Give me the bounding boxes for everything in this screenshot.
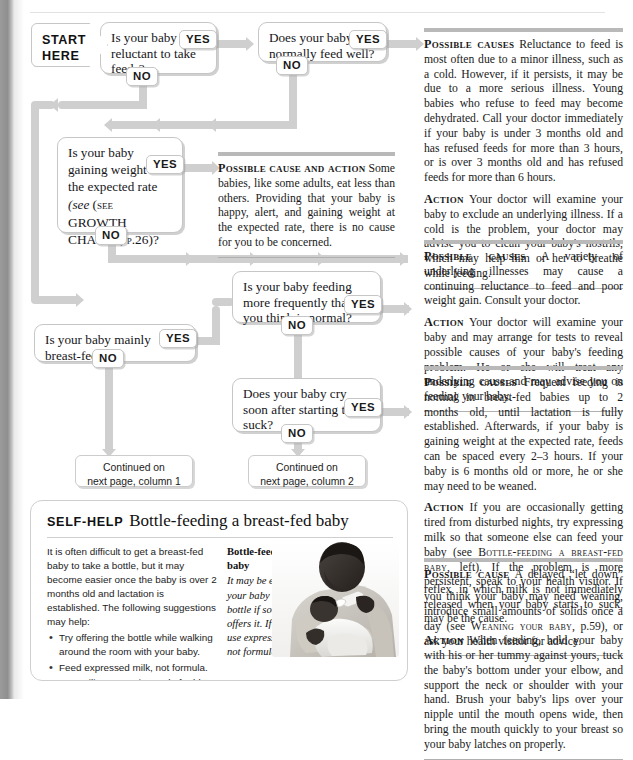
section-bar	[218, 152, 395, 156]
connector-q2-no-h2	[160, 121, 200, 129]
answer-lead: Possible cause and action	[218, 161, 365, 175]
list-item: Feed expressed milk, not formula.	[58, 661, 217, 675]
list-item: Try a silicone teat instead of rubber, o…	[58, 676, 217, 681]
tag-q6-no[interactable]: NO	[281, 424, 313, 443]
connector-arrow-q4-yes	[404, 302, 412, 316]
self-help-kicker: Self-help	[47, 515, 123, 529]
answer-lead: Possible causes	[424, 37, 514, 51]
connector-arrow-q2-no-a	[104, 118, 112, 132]
tag-q4-no[interactable]: NO	[281, 316, 313, 335]
connector-left-rail-corner	[31, 101, 55, 109]
section-rule	[218, 257, 395, 258]
answer-paragraph: Action When feeding, hold your baby with…	[424, 633, 623, 752]
self-help-title: Self-helpBottle-feeding a breast-fed bab…	[47, 511, 349, 531]
answer-lead: Possible causes	[424, 249, 525, 263]
continued1-line2: next page, column 1	[80, 475, 188, 489]
connector-q2-no-h	[112, 121, 297, 129]
continued1-line1: Continued on	[80, 461, 188, 475]
tag-label: NO	[288, 427, 306, 439]
continued-box-column-2[interactable]: Continued on next page, column 2	[248, 455, 366, 487]
section-rule	[424, 759, 623, 760]
page-gutter	[0, 0, 14, 699]
tag-q2-no[interactable]: NO	[276, 56, 308, 75]
tag-q5-no[interactable]: NO	[92, 349, 124, 368]
connector-q1-yes	[216, 40, 246, 48]
start-label-line1: START	[42, 32, 108, 48]
answer-paragraph: Possible cause A delayed “let down” refl…	[424, 567, 623, 627]
section-bar	[424, 240, 623, 244]
connector-rail-long	[31, 129, 39, 274]
continued-box-column-1[interactable]: Continued on next page, column 1	[75, 455, 193, 487]
list-item: Try offering the bottle while walking ar…	[58, 631, 217, 659]
connector-q2-yes	[386, 40, 416, 48]
answer-body: Frequent feeding is normal in breast-fed…	[424, 376, 623, 493]
tag-q5-yes[interactable]: YES	[159, 329, 197, 348]
tag-label: YES	[351, 298, 375, 310]
connector-rail-to-q5	[52, 296, 78, 304]
tag-label: YES	[356, 33, 380, 45]
tag-label: NO	[99, 352, 117, 364]
page-gutter-fade	[14, 0, 24, 699]
tag-q3-yes[interactable]: YES	[146, 155, 184, 174]
answer-paragraph: Possible causes A variety of underlying …	[424, 249, 623, 309]
photo-graphic	[272, 541, 399, 657]
answer-lead: Action	[424, 633, 464, 647]
question-text-3-line3: the expected rate	[68, 179, 173, 196]
answer-paragraph: Possible causes Reluctance to feed is mo…	[424, 37, 623, 186]
start-pennant-text: START HERE	[31, 23, 108, 64]
connector-arrow-q3-no-a	[186, 252, 194, 266]
tag-label: YES	[153, 158, 177, 170]
continued2-line1: Continued on	[253, 461, 361, 475]
answer-body: When feeding, hold your baby with his or…	[424, 634, 623, 751]
self-help-bullet-list: Try offering the bottle while walking ar…	[47, 631, 217, 681]
answer-paragraph: Possible cause and action Some babies, l…	[218, 161, 395, 251]
answer-lead: Possible cause	[424, 567, 510, 581]
top-rule	[30, 12, 605, 13]
connector-arrow-q3-no-d	[400, 252, 408, 266]
question-box-gaining-weight[interactable]: Is your baby gaining weight at the expec…	[57, 137, 183, 233]
self-help-heading: Bottle-feeding a breast-fed baby	[129, 511, 349, 530]
self-help-body: It is often difficult to get a breast-fe…	[47, 545, 217, 681]
section-bar	[424, 366, 623, 370]
tag-q6-yes[interactable]: YES	[344, 398, 382, 417]
section-bar	[424, 28, 623, 32]
tag-label: YES	[166, 332, 190, 344]
tag-label: NO	[102, 229, 120, 241]
tag-q4-yes[interactable]: YES	[344, 295, 382, 314]
tag-q2-yes[interactable]: YES	[349, 30, 387, 49]
connector-q5-yes-h2	[212, 298, 234, 306]
connector-arrow-to-q5	[76, 293, 84, 307]
tag-label: NO	[288, 319, 306, 331]
answer-lead: Action	[424, 192, 464, 206]
answer-body: Reluctance to feed is most often due to …	[424, 38, 623, 184]
connector-rail-bottom	[31, 266, 39, 300]
self-help-intro: It is often difficult to get a breast-fe…	[47, 545, 217, 629]
connector-arrow-q1-yes	[246, 37, 254, 51]
answer-lead: Possible causes	[424, 375, 517, 389]
self-help-rule	[47, 537, 393, 538]
answer-lead: Action	[424, 500, 464, 514]
section-bar	[424, 558, 623, 562]
tag-label: YES	[351, 401, 375, 413]
answer-body: Some babies, like some adults, eat less …	[218, 162, 395, 249]
continued2-line2: next page, column 2	[253, 475, 361, 489]
answer-block-some-babies-eat-less: Possible cause and action Some babies, l…	[218, 152, 395, 258]
connector-q1-no-h	[58, 101, 147, 109]
tag-label: NO	[283, 59, 301, 71]
tag-q3-no[interactable]: NO	[95, 226, 127, 245]
connector-q5-no-v	[105, 355, 113, 451]
connector-arrow-q2-yes	[416, 37, 424, 51]
tag-q1-yes[interactable]: YES	[179, 30, 217, 49]
start-label-line2: HERE	[42, 48, 108, 64]
start-here-pennant: START HERE	[31, 23, 108, 67]
connector-arrow-q2-no-c	[208, 118, 216, 132]
tag-label: YES	[186, 33, 210, 45]
answer-paragraph: Possible causes Frequent feeding is norm…	[424, 375, 623, 494]
connector-arrow-q2-no-b	[152, 118, 160, 132]
connector-q5-yes-corner	[212, 306, 220, 345]
tag-q1-no[interactable]: NO	[126, 67, 158, 86]
connector-q3-yes	[182, 164, 212, 172]
connector-arrow-q6-yes	[404, 405, 412, 419]
tag-label: NO	[133, 70, 151, 82]
